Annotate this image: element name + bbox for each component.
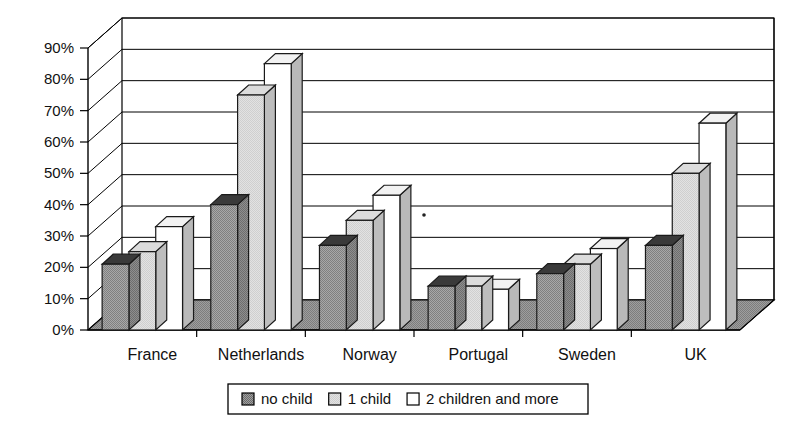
plot-area [88,18,774,337]
bar-uk-series-1 [645,235,683,330]
bar-netherlands-series-1 [211,195,249,330]
bar-side-face [400,185,411,330]
bar-side-face [373,210,384,330]
legend-swatch-2 [329,393,341,405]
bar-side-face [726,113,737,330]
gridline-depth-connector [88,112,122,142]
gridline-depth-connector [88,175,122,205]
bar-front-face [537,274,564,330]
y-axis-top-depth [88,18,122,48]
y-axis-tick-label: 40% [44,196,74,213]
y-axis-tick-label: 70% [44,102,74,119]
x-axis-category-label: UK [685,346,708,363]
x-axis-category-label: Netherlands [218,346,304,363]
bar-side-face [129,254,140,330]
y-axis-tick-label: 80% [44,70,74,87]
legend-label-3: 2 children and more [426,390,559,407]
legend-swatch-3 [407,393,419,405]
x-axis-category-label: Norway [343,346,397,363]
x-axis-category-label: Sweden [558,346,616,363]
bar-side-face [183,217,194,330]
bar-front-face [319,245,346,330]
bar-front-face [428,286,455,330]
bar-side-face [564,264,575,330]
gridline-depth-connector [88,206,122,236]
y-axis-tick-label: 0% [52,321,74,338]
bar-side-face [156,242,167,330]
legend-label-1: no child [261,390,313,407]
bar-portugal-series-1 [428,276,466,330]
y-axis-tick-label: 20% [44,258,74,275]
bar-side-face [672,235,683,330]
y-axis-tick-label: 90% [44,39,74,56]
bar-front-face [645,245,672,330]
y-axis-tick-label: 50% [44,164,74,181]
x-axis-category-labels: FranceNetherlandsNorwayPortugalSwedenUK [127,346,707,363]
gridline-depth-connector [88,143,122,173]
bar-side-face [346,235,357,330]
bar-sweden-series-1 [537,264,575,330]
x-axis-category-label: France [127,346,177,363]
bar-side-face [590,254,601,330]
bar-side-face [291,54,302,330]
chart-container: 90%80%70%60%50%40%30%20%10%0% FranceNeth… [0,0,810,446]
legend-label-2: 1 child [348,390,391,407]
y-axis-tick-label: 30% [44,227,74,244]
bar-side-face [617,239,628,330]
grouped-column-chart-3d: 90%80%70%60%50%40%30%20%10%0% FranceNeth… [0,0,810,446]
scan-artifact-speck [422,213,426,217]
bar-norway-series-1 [319,235,357,330]
y-axis-tick-labels: 90%80%70%60%50%40%30%20%10%0% [44,39,88,338]
bar-france-series-1 [102,254,140,330]
bar-side-face [238,195,249,330]
gridline-depth-connector [88,49,122,79]
legend-swatch-1 [242,393,254,405]
bar-side-face [699,163,710,330]
bar-side-face [264,85,275,330]
chart-legend: no child1 child2 children and more [228,384,588,414]
gridline-depth-connector [88,81,122,111]
y-axis-tick-label: 60% [44,133,74,150]
y-axis-tick-label: 10% [44,290,74,307]
bar-front-face [102,264,129,330]
bar-front-face [211,205,238,330]
x-axis-category-label: Portugal [449,346,509,363]
